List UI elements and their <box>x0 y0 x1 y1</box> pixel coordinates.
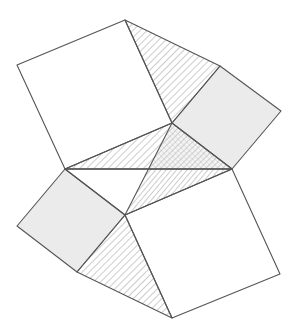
geometry-diagram <box>0 0 298 335</box>
